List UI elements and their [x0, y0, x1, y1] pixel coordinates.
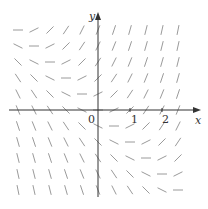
- slope-segment: [33, 153, 36, 163]
- slope-segment: [17, 153, 19, 163]
- origin-label: 0: [88, 113, 95, 126]
- slope-segment: [110, 140, 119, 144]
- slope-segment: [110, 90, 117, 97]
- slope-segment: [78, 76, 87, 80]
- slope-segment: [49, 185, 51, 195]
- slope-segment: [112, 186, 116, 195]
- slope-segment: [64, 169, 67, 178]
- slope-segment: [126, 156, 135, 160]
- slope-segment: [78, 58, 85, 65]
- slope-segment: [46, 26, 53, 33]
- slope-segment: [176, 89, 179, 98]
- slope-segment: [17, 137, 20, 147]
- slope-segment: [177, 41, 179, 51]
- slope-segment: [128, 57, 132, 66]
- slope-segment: [128, 74, 132, 83]
- slope-segment: [30, 60, 39, 64]
- slope-segment: [177, 73, 180, 83]
- slope-segment: [62, 92, 71, 96]
- slope-segment: [112, 58, 116, 67]
- slope-segment: [48, 153, 51, 162]
- slope-segment: [30, 28, 39, 32]
- slope-segment: [177, 25, 179, 35]
- slope-segment: [174, 154, 181, 161]
- slope-segment: [145, 25, 147, 35]
- slope-segment: [33, 169, 35, 179]
- slope-segment: [161, 25, 163, 35]
- slope-segment: [158, 156, 167, 160]
- slope-segment: [31, 90, 37, 98]
- slope-segment: [144, 73, 148, 82]
- slope-segment: [177, 57, 179, 67]
- slope-segment: [126, 170, 133, 177]
- slope-segment: [46, 90, 53, 97]
- slope-segment: [79, 42, 85, 50]
- slope-segment: [111, 74, 117, 82]
- slope-segment: [16, 90, 20, 99]
- slope-segment: [176, 122, 180, 131]
- slope-segment: [142, 186, 149, 193]
- slope-segment: [48, 122, 52, 131]
- slope-segment: [161, 57, 164, 67]
- slope-segment: [127, 90, 133, 98]
- slope-segment: [62, 42, 69, 49]
- slope-segment: [128, 41, 131, 50]
- slope-segment: [80, 169, 84, 178]
- slope-segment: [144, 90, 148, 99]
- slope-segment: [112, 25, 115, 34]
- slope-segment: [129, 25, 132, 35]
- slope-segment: [144, 57, 147, 66]
- slope-segment: [64, 153, 68, 162]
- slope-segment: [127, 186, 133, 194]
- slope-segment: [80, 185, 83, 194]
- x-axis-label: x: [195, 114, 202, 127]
- slope-segment: [175, 138, 181, 146]
- slope-segment: [158, 138, 165, 145]
- slope-segment: [142, 122, 149, 129]
- slope-segment: [17, 169, 19, 179]
- slope-segment: [64, 138, 68, 147]
- x-tick-label-2: 2: [162, 113, 169, 126]
- slope-segment: [142, 172, 151, 176]
- slope-segment: [174, 172, 183, 176]
- slope-segment: [145, 41, 148, 51]
- y-axis-label: y: [88, 10, 96, 23]
- slope-segment: [48, 137, 52, 146]
- y-axis-arrow-icon: [95, 12, 101, 20]
- direction-field-plot: y x 0 1 2: [0, 0, 208, 209]
- slope-segment: [32, 137, 35, 146]
- slope-segment: [30, 74, 37, 81]
- slope-segment: [111, 170, 117, 178]
- slope-segment: [46, 44, 55, 48]
- slope-segment: [160, 73, 163, 82]
- slope-segment: [63, 122, 69, 130]
- slope-segment: [78, 122, 85, 129]
- slope-segment: [142, 140, 151, 144]
- slope-segment: [33, 185, 35, 195]
- slope-segment: [79, 138, 85, 146]
- x-axis-arrow-icon: [193, 107, 201, 113]
- slope-segment: [14, 44, 23, 48]
- slope-segment: [16, 121, 19, 130]
- slope-segment: [80, 154, 84, 163]
- slope-segment: [161, 41, 163, 51]
- slope-segment: [14, 58, 21, 65]
- slope-segment: [46, 76, 55, 80]
- slope-segment: [62, 60, 71, 64]
- slope-segment: [32, 121, 36, 130]
- slope-segment: [65, 185, 68, 195]
- slope-segment: [160, 89, 164, 98]
- slope-segment: [15, 74, 21, 82]
- slope-segment: [158, 188, 167, 192]
- slope-segment: [110, 154, 117, 161]
- x-tick-label-1: 1: [131, 113, 138, 126]
- slope-segment: [17, 185, 19, 195]
- slope-segment: [112, 41, 116, 50]
- slope-segment: [63, 26, 69, 34]
- slope-segment: [49, 169, 52, 179]
- slope-segment: [80, 26, 84, 35]
